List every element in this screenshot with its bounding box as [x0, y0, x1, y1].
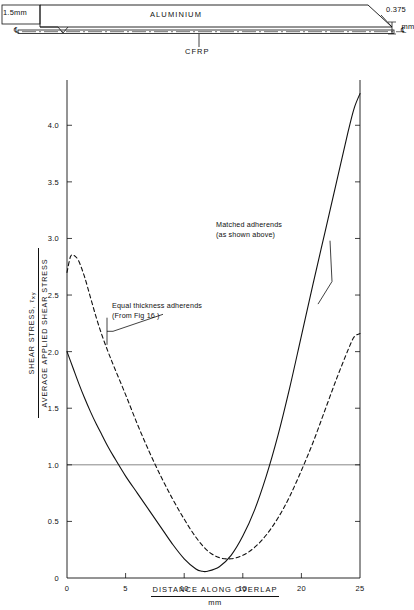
cfrp-label: CFRP — [185, 48, 209, 56]
y-axis-title-numerator-text: SHEAR STRESS, — [27, 305, 36, 374]
y-tick-label: 3.0 — [37, 234, 59, 243]
series-curve-equal-thickness — [67, 255, 360, 559]
y-axis-ticks — [67, 125, 360, 521]
plot-area — [0, 60, 412, 610]
aluminium-adherend — [40, 5, 392, 27]
y-axis-title-numerator: SHEAR STRESS, τxy — [27, 248, 39, 418]
right-thickness-label: 0.375 mm — [381, 6, 411, 31]
centreline-symbol-right: ℄ — [401, 26, 406, 35]
x-axis-title-unit: mm — [120, 597, 310, 608]
y-axis-title: SHEAR STRESS, τxy AVERAGE APPLIED SHEAR … — [27, 248, 49, 418]
x-axis-title: DISTANCE ALONG OVERLAP mm — [120, 585, 310, 608]
x-axis-ticks — [126, 573, 302, 578]
x-tick-label: 25 — [349, 584, 371, 593]
annotation-matched-adherends: Matched adherends (as shown above) — [216, 220, 282, 239]
annotation-leaders — [107, 241, 332, 345]
aluminium-label: ALUMINIUM — [150, 11, 202, 19]
y-tick-label: 0.5 — [37, 517, 59, 526]
y-tick-label: 0 — [37, 574, 59, 583]
left-thickness-label: 1.5mm — [3, 9, 37, 17]
y-axis-title-denominator: AVERAGE APPLIED SHEAR STRESS — [39, 248, 49, 418]
y-tick-label: 4.0 — [37, 121, 59, 130]
tau-subscript: xy — [30, 292, 36, 299]
right-thickness-value: 0.375 — [386, 5, 406, 14]
shear-stress-chart: 00.51.01.52.02.53.03.54.00510152025 SHEA… — [0, 60, 412, 610]
x-axis-title-text: DISTANCE ALONG OVERLAP — [151, 585, 280, 597]
series-curve-matched — [67, 94, 360, 572]
data-series-group — [67, 94, 360, 572]
axis-frame — [67, 80, 360, 578]
y-tick-label: 1.0 — [37, 461, 59, 470]
centreline-symbol-left: ℄ — [14, 26, 19, 35]
tau-symbol: τ — [28, 299, 36, 302]
x-tick-label: 0 — [56, 584, 78, 593]
annotation-equal-thickness-adherends: Equal thickness adherends (From Fig 16 ) — [112, 301, 202, 320]
specimen-diagram: 1.5mm 0.375 mm ALUMINIUM CFRP ℄ ℄ — [0, 0, 412, 62]
y-tick-label: 3.5 — [37, 178, 59, 187]
